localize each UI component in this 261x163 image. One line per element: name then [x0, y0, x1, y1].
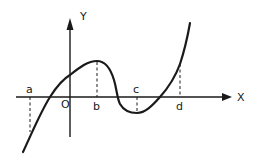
x-axis-arrow-icon [222, 93, 232, 101]
graph-svg: Y X O a b c d [0, 0, 261, 163]
y-axis-arrow-icon [67, 18, 74, 30]
point-label-b: b [93, 100, 100, 113]
function-graph-diagram: Y X O a b c d [0, 0, 261, 163]
x-axis-label: X [237, 91, 245, 104]
function-curve [23, 23, 190, 152]
y-axis-label: Y [79, 10, 87, 23]
point-label-a: a [26, 83, 33, 96]
point-label-d: d [176, 100, 183, 113]
origin-label: O [61, 98, 70, 111]
point-label-c: c [133, 83, 139, 96]
